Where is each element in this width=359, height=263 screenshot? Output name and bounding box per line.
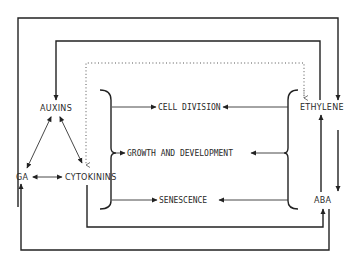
node-auxins: AUXINS xyxy=(40,104,72,113)
process-cell-division: CELL DIVISION xyxy=(158,103,221,112)
node-aba: ABA xyxy=(314,196,332,205)
hormone-interaction-diagram: AUXINS GA CYTOKININS ETHYLENE ABA CELL D… xyxy=(0,0,359,263)
edge-aba-to-ga xyxy=(21,184,329,250)
process-growth-development: GROWTH AND DEVELOPMENT xyxy=(127,149,233,158)
left-brace xyxy=(100,90,116,209)
edge-auxins-ga xyxy=(27,117,51,168)
edge-auxins-cytokinins xyxy=(60,117,82,163)
edge-ethylene-to-auxins xyxy=(56,41,320,100)
node-ga: GA xyxy=(16,173,28,182)
node-ethylene: ETHYLENE xyxy=(300,103,344,112)
node-cytokinins: CYTOKININS xyxy=(65,173,117,182)
process-senescence: SENESCENCE xyxy=(159,196,207,205)
right-brace xyxy=(284,90,298,209)
